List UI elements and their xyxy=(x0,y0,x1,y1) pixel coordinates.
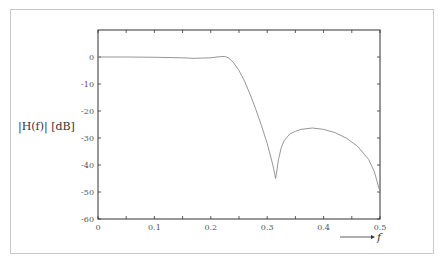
plot-area: 00.10.20.30.40.50-10-20-30-40-50-60 xyxy=(81,30,386,232)
x-tick-label: 0.3 xyxy=(261,223,274,232)
x-tick-label: 0.4 xyxy=(317,223,330,232)
y-axis-label: |H(f)| [dB] xyxy=(18,120,75,134)
x-tick-label: 0.2 xyxy=(204,223,217,232)
arrowhead-icon xyxy=(371,235,375,239)
axes-box xyxy=(98,30,380,219)
series-line xyxy=(98,56,380,192)
y-tick-label: -30 xyxy=(81,134,94,143)
y-tick-label: 0 xyxy=(89,53,94,62)
y-tick-label: -10 xyxy=(81,80,94,89)
y-tick-label: -40 xyxy=(81,161,94,170)
x-tick-label: 0.1 xyxy=(148,223,161,232)
filter-response-chart: 00.10.20.30.40.50-10-20-30-40-50-60 |H(f… xyxy=(0,0,440,260)
y-tick-label: -20 xyxy=(81,107,94,116)
y-tick-label: -50 xyxy=(81,188,94,197)
x-tick-label: 0 xyxy=(95,223,100,232)
x-axis-arrow-label: f xyxy=(340,231,383,244)
y-tick-label: -60 xyxy=(81,215,94,224)
x-axis-label: f xyxy=(376,231,383,244)
